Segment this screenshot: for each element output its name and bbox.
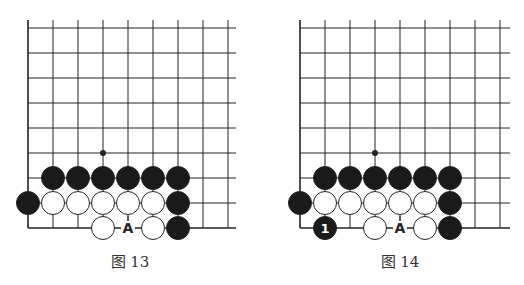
board-14-svg: A1 — [0, 0, 524, 250]
black-stone — [314, 167, 337, 190]
move-number: 1 — [320, 221, 329, 236]
black-stone — [339, 167, 362, 190]
black-stone: 1 — [314, 217, 337, 240]
caption-figure-13: 图 13 — [70, 250, 190, 271]
board-label-A: A — [393, 216, 407, 236]
white-stone — [389, 192, 412, 215]
white-stone — [364, 192, 387, 215]
caption-figure-14: 图 14 — [340, 250, 460, 271]
svg-text:A: A — [395, 220, 406, 236]
star-point — [372, 150, 378, 156]
black-stone — [389, 167, 412, 190]
black-stone — [439, 217, 462, 240]
black-stone — [439, 167, 462, 190]
white-stone — [414, 217, 437, 240]
go-diagram-14: A1 — [0, 0, 524, 250]
white-stone — [364, 217, 387, 240]
white-stone — [414, 192, 437, 215]
black-stone — [364, 167, 387, 190]
black-stone — [439, 192, 462, 215]
black-stone — [414, 167, 437, 190]
black-stone — [289, 192, 312, 215]
white-stone — [339, 192, 362, 215]
white-stone — [314, 192, 337, 215]
